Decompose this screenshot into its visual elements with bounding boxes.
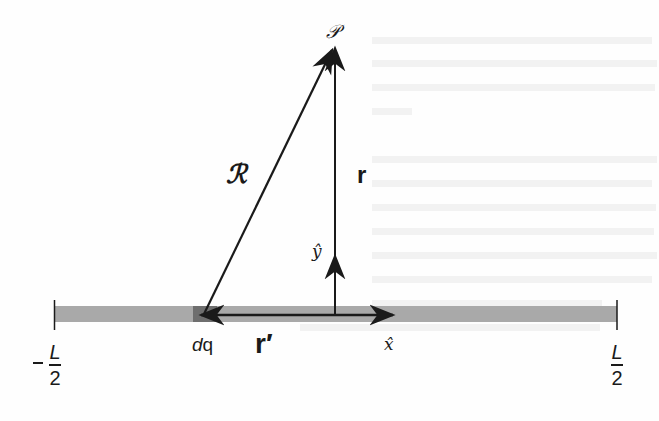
script-r-vector [204, 50, 332, 314]
left-end-numerator: L [47, 341, 63, 363]
left-end-label: L 2 [47, 341, 63, 389]
y-hat-label: ŷ [312, 243, 322, 260]
minus-sign [33, 362, 43, 364]
right-end-denominator: 2 [609, 367, 625, 389]
fraction-bar [611, 364, 623, 366]
dq-label: dq [192, 335, 213, 354]
x-hat-label: x̂ [384, 336, 394, 353]
right-end-numerator: L [609, 341, 625, 363]
script-r-label: ℛ [226, 161, 247, 187]
r-prime-label: r′ [255, 330, 273, 358]
field-point-label: 𝒫 [326, 22, 340, 41]
diagram-svg [0, 0, 659, 421]
r-label: r [357, 163, 366, 187]
diagram-canvas: 𝒫 ℛ r ŷ dq r′ x̂ L 2 L 2 [0, 0, 659, 421]
dq-d: d [192, 334, 203, 355]
left-end-denominator: 2 [47, 367, 63, 389]
fraction-bar [49, 364, 61, 366]
right-end-label: L 2 [609, 341, 625, 389]
